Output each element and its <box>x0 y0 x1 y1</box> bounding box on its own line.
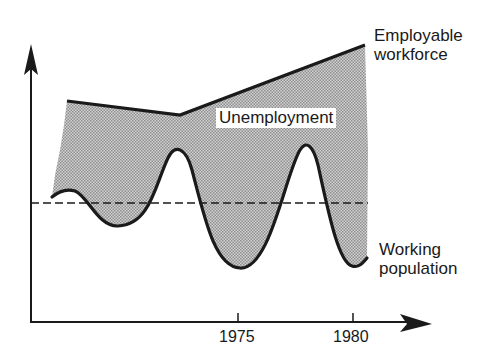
label-employable-line2: workforce <box>374 45 463 64</box>
label-employable-workforce: Employable workforce <box>374 26 463 64</box>
label-working-population: Working population <box>379 240 457 278</box>
label-working-line2: population <box>379 259 457 278</box>
label-working-line1: Working <box>379 240 457 259</box>
label-unemployment: Unemployment <box>216 108 336 128</box>
tick-label-1980: 1980 <box>333 328 369 346</box>
tick-label-1975: 1975 <box>219 328 255 346</box>
label-employable-line1: Employable <box>374 26 463 45</box>
